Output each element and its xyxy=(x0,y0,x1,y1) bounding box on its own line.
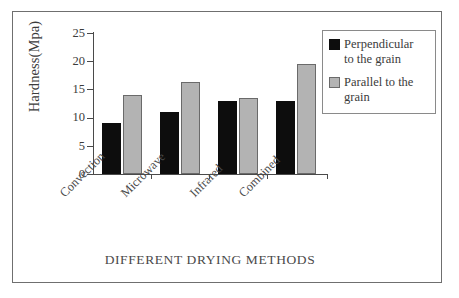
legend-label-perpendicular-line2: to the grain xyxy=(344,52,413,67)
light-square-swatch-icon xyxy=(329,77,340,88)
legend-item-perpendicular: Perpendicular to the grain xyxy=(329,37,430,66)
bar-convection-parallel xyxy=(123,95,142,175)
y-axis-title: Hardness(Mpa) xyxy=(26,0,43,142)
legend-label-parallel-line1: Parallel to the xyxy=(344,75,413,90)
y-tick-label-10: 10 xyxy=(59,111,85,123)
legend-label-parallel: Parallel to the grain xyxy=(344,75,413,104)
legend-label-perpendicular: Perpendicular to the grain xyxy=(344,37,413,66)
bar-combined-parallel xyxy=(297,64,316,174)
bar-convection-perpendicular xyxy=(102,123,121,174)
legend-label-parallel-line2: grain xyxy=(344,90,413,105)
y-tick-label-25: 25 xyxy=(59,27,85,39)
x-tick-mark-4 xyxy=(327,174,328,179)
bar-microwave-parallel xyxy=(181,82,200,174)
bar-infrared-parallel xyxy=(239,98,258,174)
y-tick-label-5: 5 xyxy=(59,140,85,152)
plot-area xyxy=(93,33,328,174)
x-axis-title: DIFFERENT DRYING METHODS xyxy=(60,252,360,268)
y-tick-label-20: 20 xyxy=(59,55,85,67)
chart-figure: Hardness(Mpa) 25 20 15 10 5 0 xyxy=(0,0,459,298)
legend-item-parallel: Parallel to the grain xyxy=(329,75,430,104)
y-tick-label-15: 15 xyxy=(59,83,85,95)
bar-infrared-perpendicular xyxy=(218,101,237,174)
dark-square-swatch-icon xyxy=(329,39,340,50)
chart-legend: Perpendicular to the grain Parallel to t… xyxy=(322,30,436,114)
legend-label-perpendicular-line1: Perpendicular xyxy=(344,37,413,52)
